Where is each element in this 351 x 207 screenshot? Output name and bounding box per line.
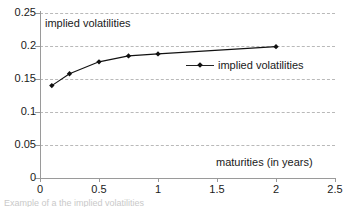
data-point-marker xyxy=(126,53,131,58)
series-plot xyxy=(0,0,351,207)
data-point-marker xyxy=(273,44,278,49)
legend-label: implied volatilities xyxy=(218,60,304,71)
data-point-marker xyxy=(96,59,101,64)
figure-caption: Example of a the implied volatilities xyxy=(4,198,244,207)
legend-line-marker-icon xyxy=(186,61,214,70)
chart-legend: implied volatilities xyxy=(186,60,304,71)
chart-figure: 00.050.10.150.20.25 00.511.522.5 implied… xyxy=(0,0,351,207)
data-point-marker xyxy=(155,51,160,56)
